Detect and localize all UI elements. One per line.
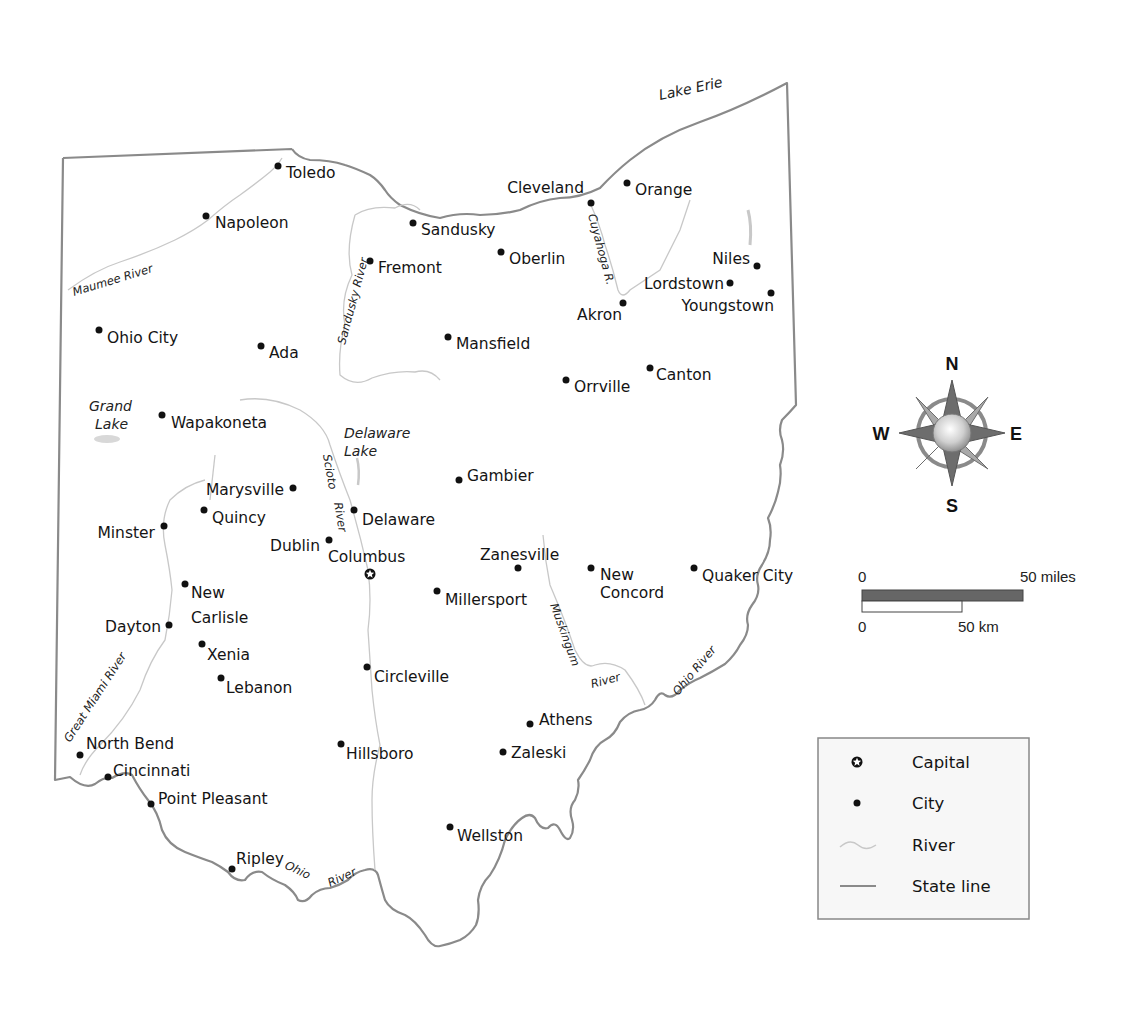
city-dot-icon [768,290,775,297]
city-label: Ohio City [107,329,178,347]
city-label: Gambier [467,467,534,485]
city-marker-dayton[interactable]: Dayton [105,618,173,636]
city-dot-icon [290,485,297,492]
lake-erie-label: Lake Erie [657,74,724,103]
city-marker-orrville[interactable]: Orrville [563,377,631,397]
city-label: Cincinnati [113,762,190,780]
city-marker-ripley[interactable]: Ripley [229,850,284,873]
city-marker-athens[interactable]: Athens [527,711,593,729]
city-dot-icon [367,258,374,265]
city-label: Canton [656,366,712,384]
city-dot-icon [218,675,225,682]
city-marker-toledo[interactable]: Toledo [275,163,336,183]
city-marker-canton[interactable]: Canton [647,365,712,385]
compass-east-label: E [1010,424,1022,444]
city-marker-akron[interactable]: Akron [577,300,626,325]
city-dot-icon [338,741,345,748]
delaware-lake-label-2: Lake [344,443,377,459]
city-label: Zaleski [511,744,566,762]
city-label: Orange [635,181,692,199]
city-marker-youngstown[interactable]: Youngstown [680,290,774,316]
city-dot-icon [201,507,208,514]
city-marker-new-concord[interactable]: NewConcord [588,565,665,603]
city-dot-icon [434,588,441,595]
city-label: Quaker City [702,567,793,585]
city-marker-new-carlisle[interactable]: NewCarlisle [182,581,249,628]
city-dot-icon [563,377,570,384]
scale-km-start: 0 [858,618,866,635]
capital-label: Columbus [328,548,405,566]
city-marker-circleville[interactable]: Circleville [364,664,450,687]
city-dot-icon [199,641,206,648]
city-label: Cleveland [507,179,584,197]
delaware-lake-label-1: Delaware [344,425,410,441]
city-marker-napoleon[interactable]: Napoleon [203,213,289,233]
city-label: Akron [577,306,622,324]
city-marker-sandusky[interactable]: Sandusky [410,220,496,240]
city-label: Niles [712,250,750,268]
city-dot-icon [854,800,861,807]
city-marker-xenia[interactable]: Xenia [199,641,251,665]
scale-miles-bar [862,590,1023,601]
city-marker-quaker-city[interactable]: Quaker City [691,565,794,586]
city-dot-icon [647,365,654,372]
city-marker-cincinnati[interactable]: Cincinnati [105,762,191,781]
city-dot-icon [500,749,507,756]
city-dot-icon [588,565,595,572]
legend: Capital City River State line [818,738,1029,919]
city-label: Carlisle [191,609,248,627]
city-label: Napoleon [215,214,289,232]
muskingum-river-label-1: Muskingum [547,601,583,668]
city-marker-marysville[interactable]: Marysville [206,481,297,499]
city-marker-hillsboro[interactable]: Hillsboro [338,741,414,764]
sandusky-river-label: Sandusky River [334,255,371,346]
city-label: Xenia [207,646,250,664]
city-label: Oberlin [509,250,565,268]
city-marker-quincy[interactable]: Quincy [201,507,266,528]
city-marker-mansfield[interactable]: Mansfield [445,334,531,354]
city-label: Orrville [574,378,630,396]
city-dot-icon [410,220,417,227]
city-marker-ohio-city[interactable]: Ohio City [96,327,179,348]
city-marker-zaleski[interactable]: Zaleski [500,744,567,762]
city-dot-icon [105,774,112,781]
city-dot-icon [754,263,761,270]
city-label: Youngstown [680,297,774,315]
ohio-river-south-label-1: Ohio [283,858,313,882]
city-marker-oberlin[interactable]: Oberlin [498,249,566,269]
city-marker-wellston[interactable]: Wellston [447,824,524,846]
city-marker-millersport[interactable]: Millersport [434,588,528,610]
city-dot-icon [447,824,454,831]
city-marker-wapakoneta[interactable]: Wapakoneta [159,412,268,433]
city-marker-cleveland[interactable]: Cleveland [507,179,594,207]
city-dot-icon [527,721,534,728]
city-label: Millersport [445,591,527,609]
city-dot-icon [229,866,236,873]
city-dot-icon [351,507,358,514]
city-dot-icon [364,664,371,671]
city-marker-fremont[interactable]: Fremont [367,258,442,278]
city-marker-lebanon[interactable]: Lebanon [218,675,293,698]
city-marker-lordstown[interactable]: Lordstown [644,275,733,293]
city-marker-delaware[interactable]: Delaware [351,507,436,530]
scale-miles-start: 0 [858,568,866,585]
scale-bar: 0 50 miles 0 50 km [858,568,1076,635]
scioto-river-label-1: Scioto [320,453,340,490]
city-dot-icon [727,280,734,287]
city-marker-point-pleasant[interactable]: Point Pleasant [148,790,268,808]
city-marker-orange[interactable]: Orange [624,180,693,200]
city-label: Dayton [105,618,161,636]
city-marker-ada[interactable]: Ada [258,343,299,363]
city-label: Minster [97,524,155,542]
city-marker-minster[interactable]: Minster [97,523,167,543]
city-dot-icon [515,565,522,572]
city-marker-gambier[interactable]: Gambier [456,467,535,485]
legend-label: City [912,794,945,813]
city-label: Delaware [362,511,435,529]
legend-label: Capital [912,753,970,772]
city-marker-dublin[interactable]: Dublin [270,537,333,556]
city-label: Point Pleasant [158,790,268,808]
city-marker-niles[interactable]: Niles [712,250,760,270]
city-label: Ripley [236,850,284,868]
capital-marker-columbus[interactable]: Columbus [328,548,405,580]
